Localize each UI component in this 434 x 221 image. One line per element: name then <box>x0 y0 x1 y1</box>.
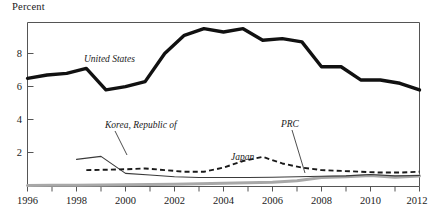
plot-frame <box>28 23 420 187</box>
x-tick-label-2004: 2004 <box>213 195 235 206</box>
series-annotation-japan: Japan <box>231 152 254 162</box>
series-annotation-korea: Korea, Republic of <box>104 120 178 130</box>
series-annotation-prc: PRC <box>280 119 300 129</box>
x-tick-label-2006: 2006 <box>262 195 283 206</box>
y-tick-label-4: 4 <box>17 114 23 125</box>
chart-plot-area: 2 4 6 8 1996 1998 2000 2002 <box>0 0 434 221</box>
series-annotation-united-states: United States <box>84 54 135 64</box>
x-tick-label-2002: 2002 <box>164 195 185 206</box>
y-tick-label-8: 8 <box>17 48 22 59</box>
x-tick-label-2010: 2010 <box>360 195 381 206</box>
x-tick-label-1996: 1996 <box>17 195 38 206</box>
y-tick-label-6: 6 <box>17 81 22 92</box>
y-tick-label-2: 2 <box>17 147 22 158</box>
x-tick-label-2000: 2000 <box>115 195 136 206</box>
x-tick-label-1998: 1998 <box>66 195 87 206</box>
x-tick-label-2008: 2008 <box>311 195 332 206</box>
x-axis-ticks <box>28 187 420 192</box>
unemployment-rate-chart: Percent 2 4 6 8 <box>0 0 434 221</box>
y-axis-ticks <box>28 54 34 153</box>
x-tick-label-2012: 2012 <box>407 195 428 206</box>
annotation-leader-lines <box>115 130 305 173</box>
